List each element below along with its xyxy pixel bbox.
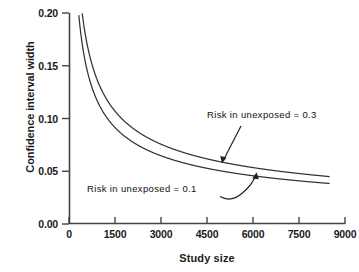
annotation-risk-0-1: Risk in unexposed = 0.1 — [87, 183, 197, 194]
x-tick-label-3000: 3000 — [138, 228, 184, 240]
x-tick-label-7500: 7500 — [276, 228, 322, 240]
y-axis-title: Confidence interval width — [24, 7, 36, 207]
y-axis-ticks — [62, 13, 69, 224]
x-tick-label-4500: 4500 — [184, 228, 230, 240]
x-tick-label-1500: 1500 — [92, 228, 138, 240]
x-tick-label-9000: 9000 — [322, 228, 359, 240]
data-curve-risk-0-3 — [82, 13, 329, 176]
x-tick-label-6000: 6000 — [230, 228, 276, 240]
chart-figure: 0.20 0.15 0.10 0.05 0.00 0 1500 3000 450… — [0, 0, 359, 272]
x-axis-title: Study size — [69, 252, 345, 264]
annotation-risk-0-3: Risk in unexposed = 0.3 — [207, 109, 317, 120]
annotation-arrow-straight — [220, 126, 241, 164]
x-tick-label-0: 0 — [46, 228, 92, 240]
